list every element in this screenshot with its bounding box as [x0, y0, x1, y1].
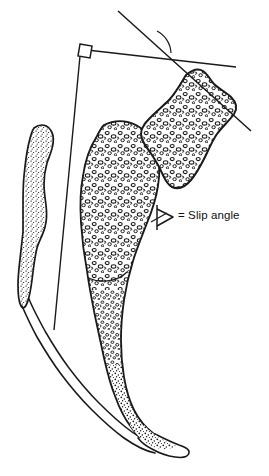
right-angle-square	[78, 44, 92, 58]
slip-angle-arc	[157, 31, 171, 53]
superior-endplate-line	[87, 50, 236, 67]
anatomical-line-drawing	[0, 0, 269, 476]
spinous-process-column	[12, 118, 64, 318]
sacral-posterior-line	[54, 56, 80, 330]
figure-canvas: = Slip angle	[0, 0, 269, 476]
legend-slip-angle-label: = Slip angle	[178, 209, 240, 221]
coccyx-tip	[130, 425, 200, 465]
slip-angle-symbol	[151, 205, 173, 230]
